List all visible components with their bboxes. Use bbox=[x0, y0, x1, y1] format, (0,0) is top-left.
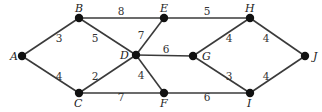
edge-weight-d-f: 4 bbox=[138, 69, 145, 81]
edge-weight-a-b: 3 bbox=[56, 32, 63, 44]
edge-weight-d-g: 6 bbox=[163, 43, 170, 55]
node-c bbox=[75, 89, 83, 97]
node-label-i: I bbox=[246, 97, 252, 110]
edge-h-j bbox=[250, 18, 305, 56]
node-j bbox=[301, 52, 309, 60]
node-label-a: A bbox=[9, 50, 18, 63]
node-b bbox=[75, 14, 83, 22]
edge-weight-c-d: 2 bbox=[92, 70, 99, 82]
edge-weight-h-j: 4 bbox=[263, 32, 270, 44]
node-label-f: F bbox=[159, 97, 168, 110]
node-label-j: J bbox=[311, 50, 318, 63]
edge-weight-b-e: 8 bbox=[118, 5, 125, 17]
node-g bbox=[189, 52, 197, 60]
node-label-d: D bbox=[119, 49, 129, 62]
edge-weight-g-h: 4 bbox=[226, 32, 233, 44]
node-label-b: B bbox=[74, 2, 83, 15]
node-label-h: H bbox=[244, 2, 255, 15]
edge-i-j bbox=[250, 56, 305, 93]
edge-weight-e-h: 5 bbox=[204, 5, 211, 17]
edge-a-c bbox=[22, 56, 79, 93]
node-label-g: G bbox=[202, 50, 211, 63]
node-label-c: C bbox=[74, 97, 83, 110]
edge-weight-i-j: 4 bbox=[263, 70, 270, 82]
edge-weight-c-f: 7 bbox=[118, 91, 125, 103]
node-a bbox=[18, 52, 26, 60]
edge-weight-g-i: 3 bbox=[226, 70, 233, 82]
graph-diagram: 348527764564344 ABCDEFGHIJ bbox=[0, 0, 322, 112]
edge-d-g bbox=[136, 55, 193, 56]
node-label-e: E bbox=[159, 2, 168, 15]
edge-weight-b-d: 5 bbox=[92, 32, 99, 44]
node-i bbox=[246, 89, 254, 97]
node-e bbox=[160, 14, 168, 22]
edge-weight-f-i: 6 bbox=[204, 91, 211, 103]
node-h bbox=[246, 14, 254, 22]
edge-weight-a-c: 4 bbox=[56, 70, 63, 82]
node-f bbox=[160, 89, 168, 97]
edge-a-b bbox=[22, 18, 79, 56]
edge-weight-d-e: 7 bbox=[138, 29, 145, 41]
node-d bbox=[132, 51, 140, 59]
